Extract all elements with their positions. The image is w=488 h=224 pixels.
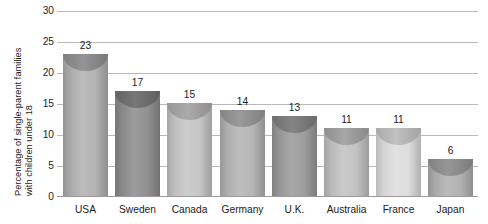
y-tick-label-15: 15 (30, 99, 54, 109)
bar-cap (63, 54, 108, 71)
bar-cap-ellipse (428, 159, 473, 176)
bar-value-label: 15 (167, 89, 212, 100)
x-tick-label-australia: Australia (324, 204, 369, 216)
bar-cap (115, 91, 160, 108)
plot-area: 231715141311116 (57, 11, 478, 197)
y-tick-label-20: 20 (30, 68, 54, 78)
bar-group: 23 (63, 11, 108, 197)
bar[interactable] (324, 128, 369, 196)
y-tick-label-25: 25 (30, 37, 54, 47)
bar-value-label: 11 (376, 114, 421, 125)
bar-value-label: 6 (428, 145, 473, 156)
bar-body (63, 54, 108, 196)
y-tick-label-0: 0 (30, 192, 54, 202)
bar-cap (167, 103, 212, 120)
bar-value-label: 23 (63, 40, 108, 51)
x-tick-label-sweden: Sweden (115, 204, 160, 216)
bar[interactable] (220, 110, 265, 196)
bar-group: 11 (376, 11, 421, 197)
bar-cap-ellipse (115, 91, 160, 108)
bar-value-label: 13 (272, 102, 317, 113)
bar-cap-ellipse (272, 116, 317, 133)
bar-chart: Percentage of single-parent families wit… (0, 0, 488, 224)
bar-group: 17 (115, 11, 160, 197)
bar-cap (272, 116, 317, 133)
x-tick-label-france: France (376, 204, 421, 216)
bar-value-label: 11 (324, 114, 369, 125)
bar[interactable] (428, 159, 473, 196)
bar-cap (324, 128, 369, 145)
bar[interactable] (115, 91, 160, 196)
x-tick-label-canada: Canada (167, 204, 212, 216)
bar-cap-ellipse (324, 128, 369, 145)
bar-series: 231715141311116 (57, 11, 478, 197)
x-tick-label-usa: USA (63, 204, 108, 216)
y-axis-tick-labels: 30 25 20 15 10 5 0 (30, 0, 54, 224)
y-tick-label-5: 5 (30, 161, 54, 171)
y-tick-label-10: 10 (30, 130, 54, 140)
bar-cap (220, 110, 265, 127)
y-tick-label-30: 30 (30, 6, 54, 16)
bar-value-label: 17 (115, 77, 160, 88)
x-tick-label-u-k: U.K. (272, 204, 317, 216)
x-axis-tick-labels: USASwedenCanadaGermanyU.K.AustraliaFranc… (57, 201, 478, 223)
bar[interactable] (167, 103, 212, 196)
bar-cap (376, 128, 421, 145)
y-axis-title: Percentage of single-parent families wit… (0, 0, 30, 200)
bar-cap-ellipse (167, 103, 212, 120)
bar[interactable] (376, 128, 421, 196)
bar-cap-ellipse (220, 110, 265, 127)
bar-cap (428, 159, 473, 176)
x-tick-label-germany: Germany (220, 204, 265, 216)
bar-group: 11 (324, 11, 369, 197)
bar[interactable] (272, 116, 317, 196)
x-tick-label-japan: Japan (428, 204, 473, 216)
y-axis-title-line-1: Percentage of single-parent families (13, 48, 23, 196)
bar-group: 14 (220, 11, 265, 197)
bar-cap-ellipse (63, 54, 108, 71)
bar-cap-ellipse (376, 128, 421, 145)
bar[interactable] (63, 54, 108, 196)
bar-group: 15 (167, 11, 212, 197)
bar-group: 13 (272, 11, 317, 197)
bar-value-label: 14 (220, 96, 265, 107)
bar-group: 6 (428, 11, 473, 197)
